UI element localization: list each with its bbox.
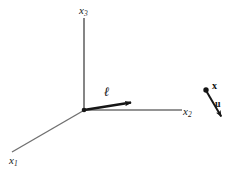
x1-axis-label-subscript: 1	[14, 159, 18, 168]
ell-vector-arrow	[84, 103, 131, 110]
x3-axis-label: x3	[79, 5, 88, 16]
u-vector-label: u	[215, 99, 221, 109]
x-point-label: x	[212, 81, 217, 91]
x3-axis-label-subscript: 3	[84, 9, 88, 18]
coordinate-axes-figure: x3 x2 x1 ℓ x u	[0, 0, 232, 173]
x2-axis-label: x2	[183, 106, 192, 117]
ell-vector-label: ℓ	[104, 85, 110, 98]
x1-axis-line	[12, 110, 85, 152]
x1-axis-label: x1	[9, 155, 18, 166]
figure-canvas	[0, 0, 232, 173]
x2-axis-label-subscript: 2	[188, 110, 192, 119]
